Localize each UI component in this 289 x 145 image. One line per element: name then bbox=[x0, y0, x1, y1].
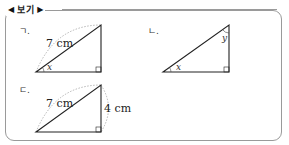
side-length-c: 4 cm bbox=[104, 102, 131, 115]
angle-x-a: x bbox=[47, 62, 52, 72]
angle-x-b: x bbox=[176, 62, 181, 72]
triangle-b bbox=[163, 25, 229, 72]
angle-y-b: y bbox=[222, 33, 227, 43]
side-length-a: 7 cm bbox=[46, 37, 73, 50]
figures bbox=[0, 0, 289, 145]
hypotenuse-length-c: 7 cm bbox=[46, 97, 73, 110]
